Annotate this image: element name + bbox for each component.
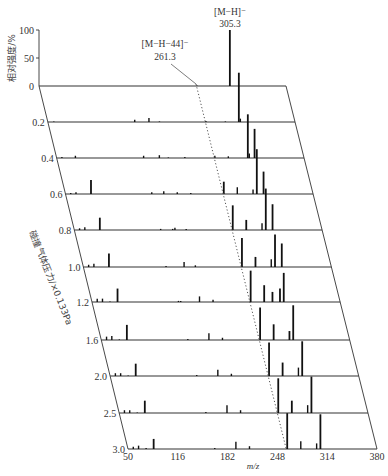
x-axis-title: m/z (247, 461, 260, 471)
mh44-label: [M−H−44]⁻ (142, 39, 189, 49)
spectrum-row: 1.0 (68, 235, 331, 273)
x-tick-label: 380 (370, 451, 385, 462)
annotation-mh44: [M−H−44]⁻ 261.3 (142, 39, 196, 84)
mh44-arrow (171, 64, 196, 84)
spectrum-row: 2.0 (95, 341, 359, 382)
x-tick-label: 50 (123, 451, 133, 462)
intensity-axis: 100 50 0 相对强度/% (6, 25, 39, 92)
spectrum-row: 1.6 (86, 305, 350, 346)
z-tick-label: 0.6 (50, 189, 63, 200)
annotation-mh: [M−H]⁻ 305.3 (214, 7, 246, 29)
y-tick-100: 100 (19, 25, 34, 36)
spectrum-row: 0.2 (32, 73, 295, 128)
z-tick-label: 0.4 (41, 153, 54, 164)
x-tick-label: 116 (170, 451, 185, 462)
z-tick-label: 0.8 (59, 225, 72, 236)
y-tick-0: 0 (29, 81, 34, 92)
spectrum-row: 0.6 (50, 149, 313, 200)
z-tick-label: 2.5 (104, 408, 117, 419)
z-axis-title: 碰撞气体压力/×0.133Pa (27, 229, 75, 327)
mh-label: [M−H]⁻ (214, 7, 246, 17)
x-tick-label: 182 (220, 451, 235, 462)
z-tick-label: 1.0 (68, 262, 81, 273)
waterfall-mass-spectrum-chart: 100 50 0 相对强度/% 碰撞气体压力/×0.133Pa 0.20.40.… (0, 0, 388, 476)
x-tick-label: 248 (270, 451, 285, 462)
y-axis-title: 相对强度/% (6, 34, 17, 82)
z-tick-label: 2.0 (95, 371, 108, 382)
mh44-value: 261.3 (154, 52, 176, 62)
z-tick-label: 0.2 (32, 117, 45, 128)
spectrum-row: 0.8 (59, 189, 322, 236)
x-tick-label: 314 (320, 451, 335, 462)
z-tick-label: 1.2 (76, 297, 89, 308)
spectrum-row: 1.2 (76, 271, 340, 308)
spectrum-row: 3.0 (113, 413, 378, 455)
spectrum-row: 2.5 (104, 377, 368, 419)
y-tick-50: 50 (24, 53, 34, 64)
mh-value: 305.3 (219, 19, 241, 29)
z-tick-label: 1.6 (86, 335, 99, 346)
